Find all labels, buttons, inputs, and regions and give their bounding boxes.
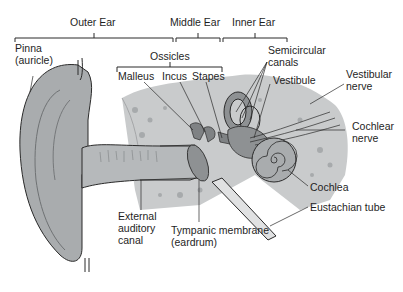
region-label-middle-ear: Middle Ear — [170, 16, 220, 28]
region-label-outer-ear: Outer Ear — [70, 16, 116, 28]
pinna-shape — [20, 65, 92, 262]
label-semicircular-canals: Semicircular canals — [268, 44, 326, 68]
ear-diagram-artwork — [0, 0, 403, 292]
label-external-auditory-canal: External auditory canal — [118, 210, 157, 246]
region-label-inner-ear: Inner Ear — [232, 16, 275, 28]
label-tympanic-membrane: Tympanic membrane (eardrum) — [171, 224, 269, 248]
label-cochlear-nerve: Cochlear nerve — [352, 120, 394, 144]
label-ossicles: Ossicles — [150, 50, 190, 62]
cochlea-shape — [252, 138, 297, 182]
label-stapes: Stapes — [192, 70, 225, 82]
label-eustachian-tube: Eustachian tube — [310, 201, 385, 213]
label-pinna: Pinna (auricle) — [15, 42, 53, 66]
label-vestibular-nerve: Vestibular nerve — [346, 68, 392, 92]
label-incus: Incus — [162, 70, 187, 82]
label-vestibule: Vestibule — [273, 74, 316, 86]
label-cochlea: Cochlea — [310, 181, 349, 193]
label-malleus: Malleus — [118, 70, 154, 82]
